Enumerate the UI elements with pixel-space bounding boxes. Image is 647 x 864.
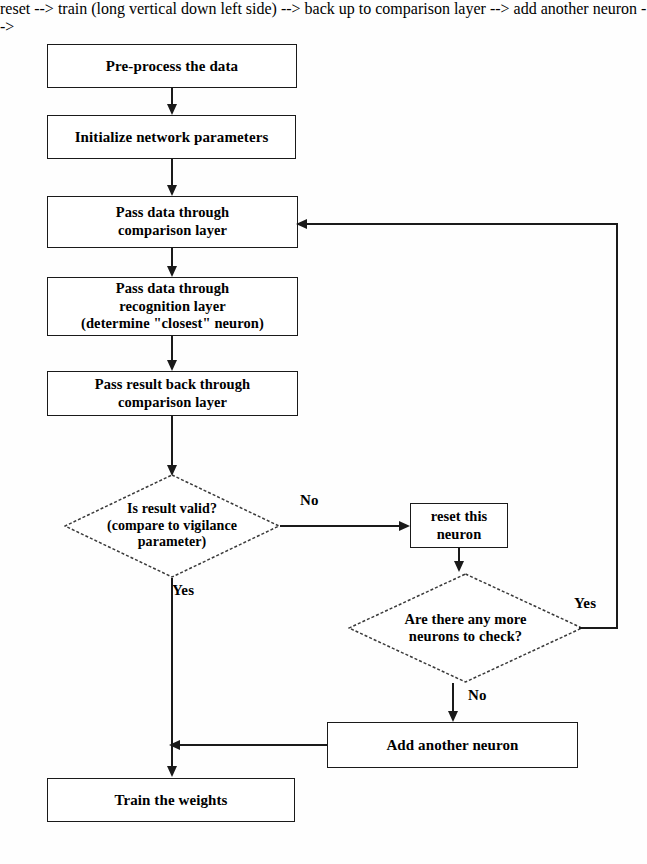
node-initialize-label: Initialize network parameters [75,128,269,146]
node-comparison-layer[interactable]: Pass data through comparison layer [47,196,298,248]
arrowhead-initialize-comparison [167,185,177,196]
node-train-weights[interactable]: Train the weights [47,778,295,822]
node-comparison-layer-label: Pass data through comparison layer [116,204,229,239]
connector-recognition-passback [171,336,173,360]
arrowhead-preprocess-initialize [167,104,177,115]
node-recognition-layer-label: Pass data through recognition layer (det… [81,280,264,333]
arrowhead-isvalid-reset [399,521,410,531]
node-recognition-layer[interactable]: Pass data through recognition layer (det… [47,277,298,336]
node-initialize[interactable]: Initialize network parameters [47,115,296,159]
node-is-result-valid[interactable]: Is result valid? (compare to vigilance p… [64,474,280,578]
node-more-neurons[interactable]: Are there any more neurons to check? [348,573,583,683]
node-preprocess-label: Pre-process the data [106,57,238,75]
flowchart-canvas: Pre-process the data Initialize network … [0,0,647,864]
arrowhead-feedback-to-comparison [296,219,307,229]
connector-comparison-recognition [171,248,173,266]
arrowhead-isvalid-train [167,766,177,777]
edge-label-moreneurons-no: No [468,687,487,704]
node-reset-neuron-label: reset this neuron [431,508,488,543]
connector-moreneurons-yes-horizontal [579,627,618,629]
connector-isvalid-reset [280,525,402,527]
node-add-another-neuron-label: Add another neuron [386,736,518,754]
node-is-result-valid-label: Is result valid? (compare to vigilance p… [107,501,237,551]
node-pass-result-back-label: Pass result back through comparison laye… [95,376,250,411]
edge-label-isvalid-yes: Yes [172,582,194,599]
arrowhead-recognition-passback [167,360,177,371]
arrowhead-moreneurons-addneuron [448,711,458,722]
connector-feedback-vertical [616,223,618,628]
arrowhead-addneuron-train [169,740,180,750]
connector-passback-isvalid [171,416,173,465]
node-reset-neuron[interactable]: reset this neuron [410,503,508,548]
node-preprocess[interactable]: Pre-process the data [47,44,297,88]
node-more-neurons-label: Are there any more neurons to check? [404,611,526,646]
connector-preprocess-initialize [171,88,173,105]
connector-addneuron-train [174,744,327,746]
node-add-another-neuron[interactable]: Add another neuron [327,722,578,768]
connector-reset-moreneurons [458,548,460,561]
connector-feedback-to-comparison [300,223,618,225]
node-pass-result-back[interactable]: Pass result back through comparison laye… [47,371,298,416]
arrowhead-comparison-recognition [167,266,177,277]
arrowhead-reset-moreneurons [454,561,464,572]
edge-label-moreneurons-yes: Yes [574,595,596,612]
node-train-weights-label: Train the weights [114,791,227,809]
connector-moreneurons-addneuron [452,683,454,711]
edge-label-isvalid-no: No [300,492,319,509]
connector-initialize-comparison [171,159,173,185]
